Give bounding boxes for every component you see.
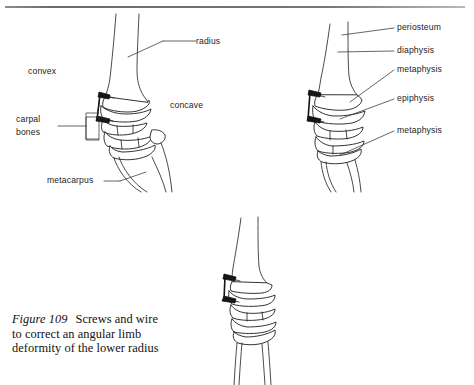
label-carpal-bones-line2: bones — [16, 126, 40, 139]
label-metacarpus: metacarpus — [47, 175, 93, 186]
figure-caption: Figure 109Screws and wire to correct an … — [12, 312, 164, 356]
label-carpal-bones: carpal bones — [16, 113, 40, 138]
label-periosteum: periosteum — [397, 22, 441, 33]
figure-bottom-drawing — [222, 217, 276, 385]
label-convex: convex — [28, 66, 56, 77]
label-metaphysis-upper: metaphysis — [397, 64, 442, 75]
figure-right-drawing — [307, 22, 365, 192]
label-metaphysis-lower: metaphysis — [397, 125, 442, 136]
label-carpal-bones-line1: carpal — [16, 113, 40, 126]
figure-left-drawing — [96, 14, 172, 192]
label-radius: radius — [196, 36, 220, 47]
label-diaphysis: diaphysis — [397, 45, 434, 56]
figure-caption-number: Figure 109 — [12, 312, 67, 326]
label-epiphysis: epiphysis — [397, 93, 434, 104]
label-concave: concave — [170, 100, 203, 111]
figure-page: radius convex concave carpal bones metac… — [0, 0, 474, 385]
